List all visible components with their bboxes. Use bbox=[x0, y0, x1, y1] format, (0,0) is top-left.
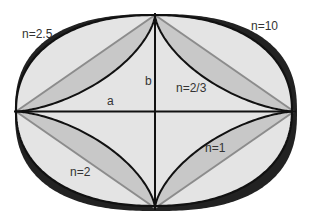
label-n-2-3: n=2/3 bbox=[176, 82, 206, 94]
label-n-2: n=2 bbox=[70, 166, 90, 178]
label-n-10: n=10 bbox=[251, 20, 278, 32]
label-a: a bbox=[107, 95, 114, 107]
label-n-2-5: n=2.5 bbox=[22, 28, 52, 40]
label-b: b bbox=[145, 75, 152, 87]
label-n-1: n=1 bbox=[205, 142, 225, 154]
